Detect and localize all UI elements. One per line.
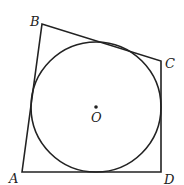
geometry-diagram: B C D A O [0, 0, 184, 185]
center-point-o [94, 105, 98, 109]
label-a: A [8, 171, 18, 185]
label-o: O [91, 110, 102, 125]
label-c: C [165, 56, 175, 71]
label-d: D [163, 172, 175, 185]
label-b: B [29, 14, 40, 29]
quadrilateral-abcd [22, 24, 161, 172]
